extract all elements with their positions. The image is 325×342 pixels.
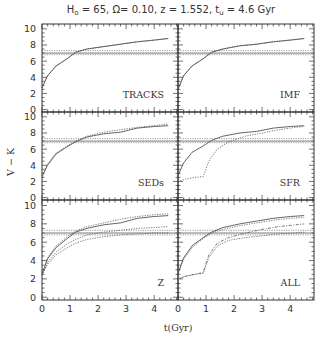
y-axis-label: V − K: [5, 147, 16, 177]
x-tick-label: 1: [67, 303, 73, 314]
y-tick-label: 2: [30, 88, 36, 99]
y-tick-label: 10: [24, 23, 36, 34]
y-tick-label: 6: [30, 237, 36, 248]
x-axis-label: t(Gyr): [164, 322, 193, 333]
panel-sfr: SFR: [178, 112, 314, 200]
panel-z: 024681001234Z: [24, 200, 178, 314]
figure: Ho = 65, Ω= 0.10, z = 1.552, tu = 4.6 Gy…: [0, 0, 325, 342]
series-line: [42, 216, 168, 275]
x-tick-label: 3: [123, 303, 129, 314]
x-tick-label: 4: [151, 303, 157, 314]
series-line: [42, 39, 168, 88]
x-tick-label: 0: [175, 303, 181, 314]
series-line: [42, 233, 168, 275]
series-line: [42, 124, 168, 176]
series-line: [178, 126, 304, 176]
y-tick-label: 8: [30, 39, 36, 50]
panel-label: IMF: [280, 89, 300, 100]
chart-canvas: Ho = 65, Ω= 0.10, z = 1.552, tu = 4.6 Gy…: [0, 0, 325, 342]
y-tick-label: 4: [30, 255, 36, 266]
series-line: [178, 39, 304, 90]
panel-label: TRACKS: [123, 89, 164, 100]
series-line: [178, 217, 304, 273]
y-tick-label: 0: [30, 292, 36, 303]
panel-all: 01234ALL: [175, 200, 314, 314]
y-tick-label: 4: [30, 72, 36, 83]
y-tick-label: 10: [24, 200, 36, 211]
x-tick-label: 4: [287, 303, 293, 314]
series-line: [178, 127, 304, 182]
y-tick-label: 10: [24, 111, 36, 122]
chart-title: Ho = 65, Ω= 0.10, z = 1.552, tu = 4.6 Gy…: [67, 4, 276, 17]
panel-grid: 0246810TRACKSIMF0246810SEDsSFR0246810012…: [24, 23, 314, 314]
x-tick-label: 2: [231, 303, 237, 314]
x-tick-label: 3: [259, 303, 265, 314]
x-tick-label: 2: [95, 303, 101, 314]
panel-seds: 0246810SEDs: [24, 111, 178, 203]
series-line: [42, 126, 168, 177]
panel-label: Z: [157, 277, 164, 288]
series-line: [178, 216, 304, 274]
panel-imf: IMF: [178, 24, 314, 112]
panel-label: ALL: [280, 277, 301, 288]
y-tick-label: 8: [30, 127, 36, 138]
series-line: [42, 227, 168, 276]
series-line: [178, 224, 304, 279]
panel-label: SEDs: [138, 177, 164, 188]
y-tick-label: 6: [30, 144, 36, 155]
y-tick-label: 6: [30, 56, 36, 67]
x-tick-label: 1: [203, 303, 209, 314]
x-tick-label: 0: [39, 303, 45, 314]
y-tick-label: 8: [30, 218, 36, 229]
y-tick-label: 2: [30, 176, 36, 187]
y-tick-label: 4: [30, 160, 36, 171]
panel-label: SFR: [280, 177, 301, 188]
series-line: [178, 232, 304, 279]
series-line: [178, 39, 304, 90]
panel-tracks: 0246810TRACKS: [24, 23, 178, 115]
y-tick-label: 2: [30, 273, 36, 284]
